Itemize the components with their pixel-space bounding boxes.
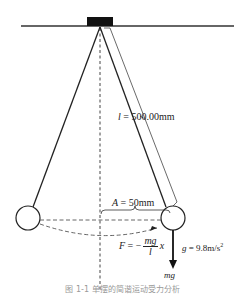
support-block (87, 17, 113, 26)
force-fraction: mgl (143, 236, 157, 257)
left-string (33, 27, 100, 207)
force-label: F = −mglx (119, 236, 164, 257)
gravity-arrow-head (169, 260, 177, 269)
gravity-label: g = 9.8m/s2 (182, 242, 223, 253)
length-label: l = 500.00mm (118, 111, 174, 122)
weight-label: mg (164, 270, 175, 280)
left-bob (16, 206, 40, 230)
amplitude-label: A = 50mm (112, 197, 154, 208)
swing-arc (40, 224, 157, 236)
figure-caption: 图 1-1 单摆的简谐运动受力分析 (0, 283, 245, 294)
